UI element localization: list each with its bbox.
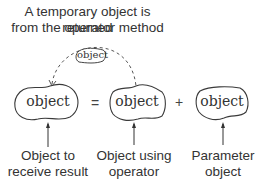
- caption-parameter-line-1: Parameter: [188, 148, 255, 164]
- temporary-object-label: object: [77, 49, 107, 60]
- caption-parameter-line-2: object: [188, 164, 255, 180]
- operator-object-label: object: [108, 93, 166, 109]
- caption-operator-line-2: operator: [94, 164, 174, 180]
- parameter-arrow-head-icon: [221, 122, 225, 128]
- caption-operator: Object using operator: [94, 148, 174, 180]
- result-arrow-head-icon: [46, 122, 50, 128]
- result-object-label: object: [18, 93, 78, 109]
- caption-parameter: Parameter object: [188, 148, 255, 180]
- plus-sign: +: [175, 94, 183, 110]
- caption-result: Object to receive result: [0, 148, 96, 180]
- operator-arrow-head-icon: [132, 122, 136, 128]
- parameter-object-label: object: [194, 93, 250, 109]
- title-line-2: from the operator method: [0, 20, 175, 36]
- caption-result-line-2: receive result: [0, 164, 96, 180]
- caption-operator-line-1: Object using: [94, 148, 174, 164]
- caption-result-line-1: Object to: [0, 148, 96, 164]
- equals-sign: =: [91, 95, 99, 111]
